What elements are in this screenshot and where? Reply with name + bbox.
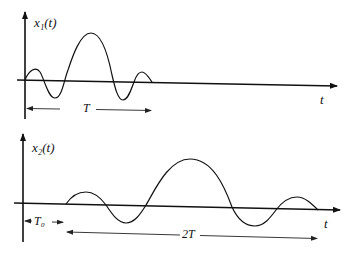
top-duration-arrow (27, 109, 60, 110)
bottom-plot (14, 134, 340, 242)
bottom-signal-curve (66, 159, 318, 226)
bottom-duration-label: 2T (181, 228, 196, 240)
duration-arrow-right (200, 236, 317, 239)
top-x-label: t (320, 93, 324, 106)
duration-arrow-left (67, 232, 180, 235)
bottom-x-label: t (324, 217, 328, 230)
top-duration-label: T (82, 102, 91, 114)
bottom-y-label: x₂(t) (32, 141, 55, 154)
bottom-x-axis (14, 203, 340, 210)
signal-diagram (0, 0, 357, 258)
top-signal-curve (25, 33, 152, 100)
top-y-label: x₁(t) (34, 16, 57, 29)
bottom-delay-label: T₀ (33, 215, 46, 227)
top-duration-arrow (96, 110, 151, 111)
top-plot (17, 12, 337, 119)
